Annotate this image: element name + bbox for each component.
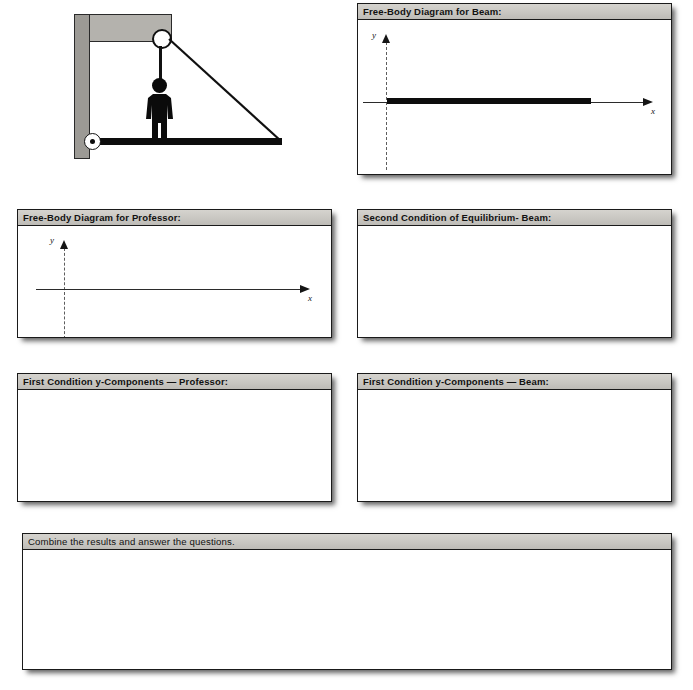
panel-fbd-professor[interactable]: Free-Body Diagram for Professor: y x <box>17 209 332 338</box>
panel-combine-results[interactable]: Combine the results and answer the quest… <box>22 533 672 670</box>
panel-first-condition-y-professor[interactable]: First Condition y-Components — Professor… <box>17 373 332 502</box>
panel-header-fbd-beam: Free-Body Diagram for Beam: <box>358 4 671 20</box>
beam-shape <box>86 138 282 145</box>
fbd-beam-bar <box>387 98 591 104</box>
y-axis-line <box>64 248 65 337</box>
panel-body-second-condition-beam[interactable] <box>358 226 671 337</box>
panel-header-second-condition-beam: Second Condition of Equilibrium- Beam: <box>358 210 671 226</box>
panel-body-fbd-beam[interactable]: y x <box>358 20 671 174</box>
person-body <box>136 92 184 144</box>
panel-body-first-condition-y-beam[interactable] <box>358 390 671 501</box>
panel-body-first-condition-y-professor[interactable] <box>18 390 331 501</box>
person-head <box>152 78 167 93</box>
y-axis-arrowhead <box>382 34 390 43</box>
panel-header-fbd-professor: Free-Body Diagram for Professor: <box>18 210 331 226</box>
panel-header-first-condition-y-beam: First Condition y-Components — Beam: <box>358 374 671 390</box>
x-axis-label: x <box>651 106 655 116</box>
x-axis-label: x <box>308 293 312 303</box>
x-axis-arrowhead <box>643 98 653 106</box>
y-axis-label: y <box>50 235 54 245</box>
person-pictogram <box>136 78 184 144</box>
panel-second-condition-beam[interactable]: Second Condition of Equilibrium- Beam: <box>357 209 672 338</box>
x-axis-arrowhead <box>300 285 310 293</box>
x-axis-line <box>36 289 302 290</box>
panel-header-first-condition-y-professor: First Condition y-Components — Professor… <box>18 374 331 390</box>
panel-body-combine-results[interactable] <box>23 550 671 669</box>
pivot-center-dot <box>90 139 95 144</box>
panel-fbd-beam[interactable]: Free-Body Diagram for Beam: y x <box>357 3 672 175</box>
y-axis-label: y <box>372 30 376 40</box>
panel-body-fbd-professor[interactable]: y x <box>18 226 331 337</box>
y-axis-arrowhead <box>60 240 68 249</box>
y-axis-line <box>386 42 387 170</box>
beam-pulley-professor-illustration <box>0 0 345 195</box>
panel-first-condition-y-beam[interactable]: First Condition y-Components — Beam: <box>357 373 672 502</box>
panel-header-combine-results: Combine the results and answer the quest… <box>23 534 671 550</box>
